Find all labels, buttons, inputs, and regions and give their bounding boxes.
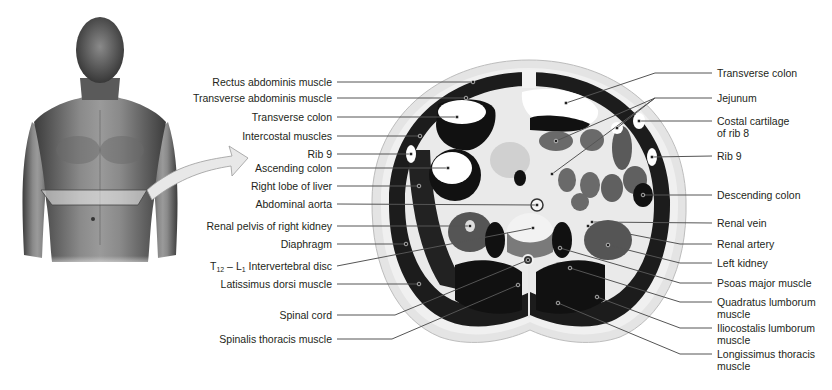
label-jejunum: Jejunum [717, 92, 757, 104]
figure-canvas [0, 0, 832, 390]
label-part: – L [224, 260, 242, 272]
label-line: Costal cartilage [717, 115, 789, 127]
label-costal-cartilage: Costal cartilage of rib 8 [717, 115, 789, 139]
label-rib-9-left: Rib 9 [307, 148, 332, 160]
label-longissimus-thoracis: Longissimus thoracis muscle [717, 348, 815, 372]
anatomy-figure: Rectus abdominis muscle Transverse abdom… [0, 0, 832, 390]
label-renal-artery: Renal artery [717, 238, 774, 250]
label-intercostal-muscles: Intercostal muscles [242, 130, 332, 142]
label-line: of rib 8 [717, 127, 789, 139]
label-spinal-cord: Spinal cord [279, 309, 332, 321]
torso-photo [0, 17, 200, 270]
label-iliocostalis-lumborum: Iliocostalis lumborum muscle [717, 322, 815, 346]
label-line: muscle [717, 308, 816, 320]
label-transverse-abdominis: Transverse abdominis muscle [193, 92, 332, 104]
label-line: muscle [717, 360, 815, 372]
label-diaphragm: Diaphragm [281, 238, 332, 250]
label-rib-9-right: Rib 9 [717, 150, 742, 162]
label-ascending-colon: Ascending colon [255, 162, 332, 174]
cross-section [372, 60, 686, 342]
label-right-lobe-liver: Right lobe of liver [251, 180, 332, 192]
label-quadratus-lumborum: Quadratus lumborum muscle [717, 296, 816, 320]
label-t12-l1-disc: T12 – L1 Intervertebral disc [210, 260, 332, 276]
label-line: Iliocostalis lumborum [717, 322, 815, 334]
label-latissimus-dorsi: Latissimus dorsi muscle [221, 278, 332, 290]
label-renal-pelvis: Renal pelvis of right kidney [207, 220, 332, 232]
label-part: Intervertebral disc [246, 260, 332, 272]
label-psoas-major: Psoas major muscle [717, 277, 812, 289]
label-line: Quadratus lumborum [717, 296, 816, 308]
label-transverse-colon-left: Transverse colon [252, 111, 332, 123]
label-rectus-abdominis: Rectus abdominis muscle [212, 76, 332, 88]
section-plane-band [41, 190, 147, 205]
label-transverse-colon-right: Transverse colon [717, 67, 797, 79]
label-line: muscle [717, 334, 815, 346]
label-descending-colon: Descending colon [717, 189, 800, 201]
label-left-kidney: Left kidney [717, 257, 768, 269]
label-abdominal-aorta: Abdominal aorta [256, 198, 332, 210]
label-line: Longissimus thoracis [717, 348, 815, 360]
label-renal-vein: Renal vein [717, 217, 767, 229]
label-spinalis-thoracis: Spinalis thoracis muscle [219, 333, 332, 345]
